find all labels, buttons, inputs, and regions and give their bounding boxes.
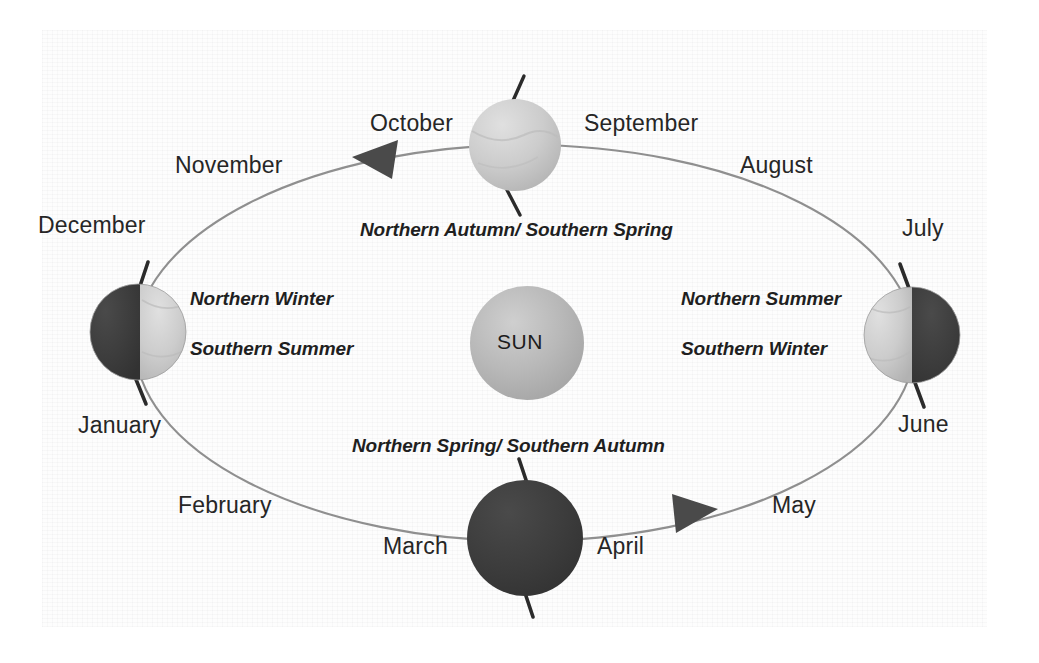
season-label-southern-winter: Southern Winter <box>681 338 827 360</box>
earth-december-january <box>86 262 192 404</box>
earth-march-april <box>467 459 583 617</box>
earth-september-october <box>469 76 561 215</box>
season-label-southern-summer: Southern Summer <box>190 338 353 360</box>
orbit-arrow-lower-right <box>672 494 718 533</box>
season-label-northern-spring-southern-autumn: Northern Spring/ Southern Autumn <box>352 435 665 457</box>
month-label-january: January <box>78 412 161 439</box>
month-label-june: June <box>898 411 949 438</box>
month-label-august: August <box>740 152 813 179</box>
orbit-arrow-upper-left <box>352 140 398 179</box>
season-label-northern-winter: Northern Winter <box>190 288 333 310</box>
month-label-march: March <box>383 533 448 560</box>
month-label-october: October <box>370 110 453 137</box>
month-label-september: September <box>584 110 698 137</box>
sun-label: SUN <box>497 330 543 354</box>
earth-axis-top-south <box>507 190 520 215</box>
month-label-november: November <box>175 152 283 179</box>
season-label-northern-summer: Northern Summer <box>681 288 841 310</box>
earth-axis-right-south <box>914 380 924 407</box>
month-label-may: May <box>772 492 816 519</box>
month-label-july: July <box>902 215 944 242</box>
earth-axis-left-south <box>135 377 146 404</box>
season-label-northern-autumn-southern-spring: Northern Autumn/ Southern Spring <box>360 219 673 241</box>
earth-june-july <box>860 264 966 407</box>
month-label-february: February <box>178 492 272 519</box>
month-label-april: April <box>597 533 644 560</box>
earth-axis-top-north <box>512 76 524 103</box>
month-label-december: December <box>38 212 146 239</box>
diagram-canvas: SUN January February March April May Jun… <box>0 0 1039 663</box>
